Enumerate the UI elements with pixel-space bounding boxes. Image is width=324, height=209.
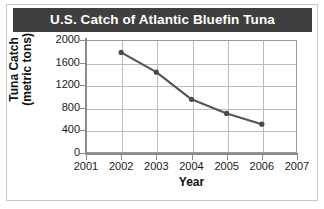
data-point-marker [259,122,264,127]
y-tick-label: 1600 [40,57,80,68]
data-point-marker [189,97,194,102]
y-tick-label: 400 [40,124,80,135]
x-tick-label: 2007 [275,161,319,172]
chart-title-bar: U.S. Catch of Atlantic Bluefin Tuna [13,8,312,32]
chart-title: U.S. Catch of Atlantic Bluefin Tuna [50,13,275,27]
data-point-marker [154,70,159,75]
y-tick-label: 800 [40,102,80,113]
data-point-marker [224,111,229,116]
x-axis-label: Year [86,176,297,188]
data-point-marker [119,50,124,55]
y-tick-label: 2000 [40,34,80,45]
y-axis-label-line1: Tuna Catch [7,37,21,101]
y-axis-label: Tuna Catch (metric tons) [8,10,35,128]
y-tick-label: 1200 [40,79,80,90]
chart-figure: U.S. Catch of Atlantic Bluefin Tuna 0400… [0,0,324,209]
y-axis-label-line2: (metric tons) [20,33,34,106]
y-tick-mark [80,153,86,154]
data-series-line [86,40,297,153]
series-polyline [121,52,262,124]
y-tick-label: 0 [40,147,80,158]
